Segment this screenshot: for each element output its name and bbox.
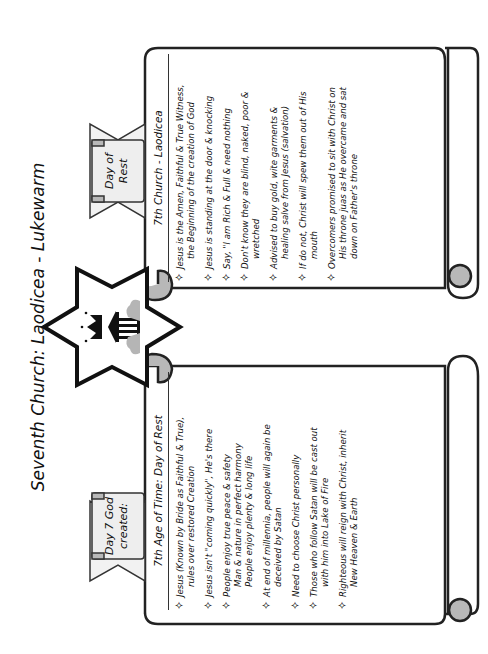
sparkle-bullet-icon: ✧ [174, 601, 185, 610]
sparkle-bullet-icon: ✧ [221, 273, 232, 282]
item-line: the Beginning of the creation of God [186, 54, 197, 269]
list-item: ✧Need to choose Christ personally [291, 372, 302, 610]
list-item: ✧Jesus is the Amen, Faithful & True Witn… [175, 54, 197, 282]
item-line: mouth [309, 54, 320, 269]
left-scroll-list: ✧Jesus (Known by Bride as Faithful & Tru… [175, 372, 360, 610]
item-line: Overcomers promised to sit with Christ o… [327, 87, 337, 269]
right-scroll-heading: 7th Church - Laodicea [152, 54, 169, 282]
item-line: New Heaven & Earth [349, 372, 360, 597]
sparkle-bullet-icon: ✧ [326, 273, 337, 282]
item-line: wretched [251, 54, 262, 269]
item-line: rules over restored Creation [186, 372, 197, 597]
sparkle-bullet-icon: ✧ [239, 273, 250, 282]
item-line: His throne juas as He overcame and sat [338, 54, 349, 269]
ribbon-line: created: [117, 493, 131, 559]
right-scroll-bottom-curl-icon [449, 265, 471, 287]
right-ribbon-label: Day of Rest [103, 140, 131, 202]
item-line: Righteous will reign with Christ, inheri… [338, 430, 348, 597]
list-item: ✧Say, "I am Rich & Full & need nothing [222, 54, 233, 282]
list-item: ✧Jesus isn't "coming quickly", He's ther… [204, 372, 215, 610]
list-item: ✧Don't know they are blind, naked, poor … [240, 54, 262, 282]
item-line: with him into Lake of Fire [320, 372, 331, 597]
item-line: Those who follow Satan will be cast out [309, 427, 319, 597]
item-line: People enjoy true peace & safety [222, 454, 232, 597]
item-line: Need to choose Christ personally [291, 455, 301, 597]
item-line: People enjoy plenty & long life [244, 372, 255, 597]
list-item: ✧People enjoy true peace & safetyMan & n… [222, 372, 255, 610]
sparkle-bullet-icon: ✧ [290, 601, 301, 610]
item-line: deceived by Satan [273, 372, 284, 597]
sparkle-bullet-icon: ✧ [337, 601, 348, 610]
ribbon-line: Day 7 God [103, 493, 117, 559]
diagram-canvas: Seventh Church: Laodicea - Lukewarm [0, 0, 488, 654]
left-scroll-heading: 7th Age of Time: Day of Rest [152, 372, 169, 610]
item-line: healing salve from Jesus (salvation) [280, 54, 291, 269]
list-item: ✧If do not, Christ will spew them out of… [298, 54, 320, 282]
sparkle-bullet-icon: ✧ [203, 273, 214, 282]
item-line: Advised to buy gold, wite garments & [269, 107, 279, 269]
list-item: ✧Those who follow Satan will be cast out… [309, 372, 331, 610]
sparkle-bullet-icon: ✧ [261, 601, 272, 610]
sparkle-bullet-icon: ✧ [268, 273, 279, 282]
left-scroll-bottom-curl-icon [449, 599, 471, 621]
sparkle-bullet-icon: ✧ [203, 601, 214, 610]
item-line: Don't know they are blind, naked, poor & [240, 92, 250, 269]
list-item: ✧At end of millennia, people will again … [262, 372, 284, 610]
list-item: ✧Righteous will reign with Christ, inher… [338, 372, 360, 610]
left-ribbon-label: Day 7 God created: [103, 493, 131, 559]
item-line: Man & nature in perfect harmony [233, 372, 244, 597]
list-item: ✧Overcomers promised to sit with Christ … [327, 54, 360, 282]
item-line: Jesus is standing at the door & knocking [204, 96, 214, 269]
ribbon-line: Day of [103, 140, 117, 202]
left-scroll-content: 7th Age of Time: Day of Rest ✧Jesus (Kno… [152, 372, 367, 610]
sparkle-bullet-icon: ✧ [308, 601, 319, 610]
item-line: If do not, Christ will spew them out of … [298, 92, 308, 269]
item-line: down on Father's throne [349, 54, 360, 269]
item-line: Jesus is the Amen, Faithful & True Witne… [175, 84, 185, 269]
item-line: At end of millennia, people will again b… [262, 424, 272, 597]
item-line: Jesus (Known by Bride as Faithful & True… [175, 417, 185, 597]
sparkle-bullet-icon: ✧ [174, 273, 185, 282]
list-item: ✧Jesus (Known by Bride as Faithful & Tru… [175, 372, 197, 610]
item-line: Jesus isn't "coming quickly", He's there [204, 429, 214, 597]
item-line: Say, "I am Rich & Full & need nothing [222, 108, 232, 269]
ribbon-line: Rest [117, 140, 131, 202]
list-item: ✧Advised to buy gold, wite garments &hea… [269, 54, 291, 282]
right-scroll-list: ✧Jesus is the Amen, Faithful & True Witn… [175, 54, 360, 282]
right-scroll-content: 7th Church - Laodicea ✧Jesus is the Amen… [152, 54, 367, 282]
sparkle-bullet-icon: ✧ [221, 601, 232, 610]
sparkle-bullet-icon: ✧ [297, 273, 308, 282]
list-item: ✧Jesus is standing at the door & knockin… [204, 54, 215, 282]
